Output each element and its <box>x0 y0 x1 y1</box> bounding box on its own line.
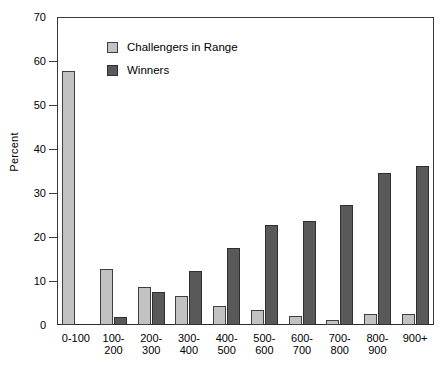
x-axis-tick-label: 500- 600 <box>246 333 284 356</box>
y-axis-tick-label: 70 <box>2 12 46 23</box>
bar-challengers <box>402 314 415 325</box>
bar-challengers <box>100 269 113 325</box>
bar-challengers <box>326 320 339 325</box>
y-axis-tick <box>49 61 57 62</box>
y-axis-tick-label: 50 <box>2 100 46 111</box>
x-axis-tick-label: 600- 700 <box>283 333 321 356</box>
y-axis-tick-label: 20 <box>2 232 46 243</box>
caption-sliver <box>0 362 444 369</box>
bar-challengers <box>289 316 302 325</box>
x-axis-tick-label: 400- 500 <box>208 333 246 356</box>
y-axis-tick-label: 10 <box>2 276 46 287</box>
x-axis-tick-label: 0-100 <box>57 333 95 345</box>
legend-label-challengers: Challengers in Range <box>127 42 238 54</box>
x-axis-tick-label: 900+ <box>396 333 434 345</box>
legend: Challengers in Range Winners <box>107 42 238 87</box>
y-axis-tick <box>49 237 57 238</box>
x-axis-tick-label: 800- 900 <box>359 333 397 356</box>
y-axis-tick <box>49 193 57 194</box>
bar-winners <box>340 205 353 325</box>
x-axis-tick-label: 700- 800 <box>321 333 359 356</box>
y-axis-tick-label: 0 <box>2 320 46 331</box>
y-axis-tick-label: 40 <box>2 144 46 155</box>
dark-gray-swatch-icon <box>107 65 118 76</box>
bar-challengers <box>62 71 75 325</box>
bar-chart: Percent 010203040506070 0-100100- 200200… <box>0 0 444 369</box>
bar-challengers <box>251 310 264 325</box>
y-axis-tick <box>49 105 57 106</box>
y-axis-tick-label: 60 <box>2 56 46 67</box>
bar-winners <box>303 221 316 325</box>
x-axis-tick-label: 100- 200 <box>95 333 133 356</box>
x-axis-tick-label: 300- 400 <box>170 333 208 356</box>
bar-winners <box>152 292 165 325</box>
bar-challengers <box>138 287 151 325</box>
bar-winners <box>265 225 278 325</box>
bar-winners <box>189 271 202 325</box>
bar-winners <box>378 173 391 325</box>
bar-challengers <box>364 314 377 325</box>
legend-item-winners: Winners <box>107 65 238 77</box>
bar-winners <box>416 166 429 325</box>
light-gray-swatch-icon <box>107 42 118 53</box>
bar-winners <box>114 317 127 325</box>
y-axis-tick <box>49 149 57 150</box>
bar-winners <box>227 248 240 325</box>
y-axis-tick <box>49 281 57 282</box>
legend-label-winners: Winners <box>127 65 169 77</box>
bar-challengers <box>213 306 226 325</box>
x-axis-tick-label: 200- 300 <box>132 333 170 356</box>
legend-item-challengers: Challengers in Range <box>107 42 238 54</box>
y-axis-tick-label: 30 <box>2 188 46 199</box>
bar-challengers <box>175 296 188 325</box>
